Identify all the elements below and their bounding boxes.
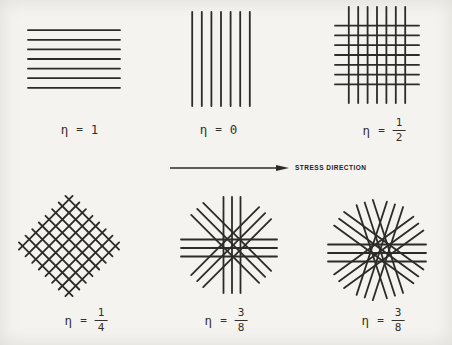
equals-sign: = [377,314,385,327]
eta-value: 1 [91,122,100,137]
equals-sign: = [76,123,84,136]
fraction-numerator: 3 [392,307,405,321]
eta-fraction: 3 8 [235,307,248,333]
eta-fraction: 1 4 [95,307,108,333]
eta-label-cross-ply-0-90: η = 1 2 [363,117,406,143]
equals-sign: = [215,123,223,136]
fiber-patterns-svg [0,0,452,345]
stress-direction-label: STRESS DIRECTION [295,164,367,171]
fraction-denominator: 8 [392,321,405,334]
equals-sign: = [220,314,228,327]
eta-symbol: η [65,313,74,328]
eta-symbol: η [61,122,70,137]
eta-value: 0 [230,122,239,137]
eta-fraction: 3 8 [392,307,405,333]
fraction-denominator: 2 [393,131,406,144]
eta-label-star-five-directions: η = 3 8 [362,307,405,333]
eta-label-star-four-directions: η = 3 8 [205,307,248,333]
equals-sign: = [80,314,88,327]
stress-direction-arrow [170,165,289,171]
fraction-numerator: 3 [235,307,248,321]
pattern-cross-ply-0-90 [335,7,419,103]
fiber-orientation-figure: η = 1 η = 0 η = 1 2 η = 1 4 η = 3 8 η = [0,0,452,345]
eta-symbol: η [362,313,371,328]
pattern-star-four-directions [181,197,277,293]
eta-symbol: η [363,123,372,138]
fraction-numerator: 1 [393,117,406,131]
pattern-cross-ply-plus-minus-45 [19,196,119,296]
eta-label-cross-ply-45: η = 1 4 [65,307,108,333]
equals-sign: = [378,124,386,137]
fraction-denominator: 8 [235,321,248,334]
eta-label-unidirectional-perpendicular: η = 0 [200,122,239,137]
fraction-denominator: 4 [95,321,108,334]
pattern-unidirectional-perpendicular [192,12,250,106]
eta-fraction: 1 2 [393,117,406,143]
pattern-unidirectional-parallel [28,30,120,88]
eta-label-unidirectional-parallel: η = 1 [61,122,100,137]
eta-symbol: η [200,122,209,137]
eta-symbol: η [205,313,214,328]
pattern-star-five-directions [328,200,426,300]
fraction-numerator: 1 [95,307,108,321]
